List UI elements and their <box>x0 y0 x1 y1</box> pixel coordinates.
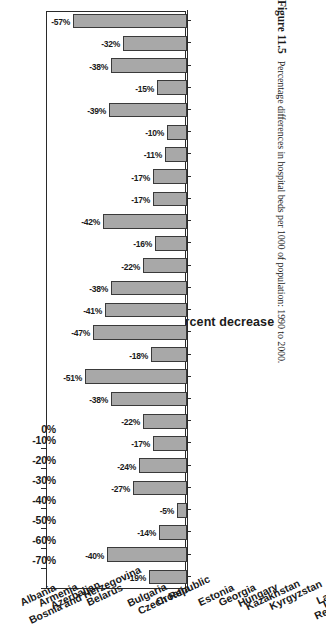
bar-value-label: -22% <box>121 417 140 427</box>
bar <box>133 481 187 496</box>
bar-value-label: -38% <box>89 395 108 405</box>
axis-tick <box>41 448 46 449</box>
bar <box>109 103 187 118</box>
bar <box>103 214 187 229</box>
bar-value-label: -51% <box>63 373 82 383</box>
chart-area: percent decrease -19%-40%-14%-5%-27%-24%… <box>0 0 286 644</box>
bar <box>153 436 187 451</box>
bar <box>143 414 187 429</box>
bar <box>177 503 187 518</box>
bar-value-label: -15% <box>135 84 154 94</box>
axis-tick <box>41 568 46 569</box>
bar <box>167 125 187 140</box>
bar <box>85 369 187 384</box>
bar-value-label: -5% <box>160 506 174 516</box>
bar <box>93 325 187 340</box>
zero-baseline <box>187 10 188 588</box>
bar-value-label: -27% <box>111 484 130 494</box>
axis-tick-label: -40% <box>32 494 56 506</box>
bar <box>139 458 187 473</box>
axis-tick-label: -10% <box>32 434 56 446</box>
bar-value-label: -38% <box>89 62 108 72</box>
axis-tick-label: -30% <box>32 474 56 486</box>
bar <box>111 392 187 407</box>
axis-tick-label: -20% <box>32 454 56 466</box>
bar-value-label: -32% <box>101 39 120 49</box>
bar-value-label: -17% <box>131 195 150 205</box>
bar <box>165 147 187 162</box>
axis-tick <box>41 548 46 549</box>
category-label-holder: Republic of Moldova <box>310 589 326 600</box>
axis-tick-label: -50% <box>32 514 56 526</box>
bar-value-label: -22% <box>121 262 140 272</box>
bar <box>105 303 187 318</box>
bar <box>155 236 187 251</box>
axis-tick-label: -60% <box>32 534 56 546</box>
bar <box>111 58 187 73</box>
category-label: Republic of Moldova <box>313 568 326 621</box>
bar-value-label: -24% <box>117 462 136 472</box>
bar <box>157 80 187 95</box>
bar-value-label: -40% <box>85 551 104 561</box>
bar-value-label: -14% <box>137 528 156 538</box>
axis-tick-label: 0% <box>41 423 56 435</box>
bar <box>107 547 187 562</box>
bar-value-label: -39% <box>87 106 106 116</box>
bar-value-label: -17% <box>131 173 150 183</box>
bar-value-label: -41% <box>83 306 102 316</box>
bar-value-label: -47% <box>71 328 90 338</box>
axis-tick-label: -70% <box>32 554 56 566</box>
category-label-line: Republic of Moldova <box>313 568 326 621</box>
bar-value-label: -57% <box>51 17 70 27</box>
bar-value-label: -16% <box>133 239 152 249</box>
bar-value-label: -10% <box>145 128 164 138</box>
bar <box>149 570 187 585</box>
axis-tick <box>41 488 46 489</box>
bar-value-label: -11% <box>144 151 162 161</box>
axis-tick <box>41 528 46 529</box>
bar <box>159 525 187 540</box>
bar <box>153 169 187 184</box>
bar-value-label: -17% <box>131 440 150 450</box>
bar <box>153 192 187 207</box>
bar <box>111 281 187 296</box>
plot-frame: -19%-40%-14%-5%-27%-24%-17%-22%-38%-51%-… <box>46 11 186 589</box>
axis-tick <box>41 508 46 509</box>
bar-value-label: -38% <box>89 284 108 294</box>
bar-value-label: -42% <box>81 217 100 227</box>
bar <box>123 36 187 51</box>
bar <box>143 258 187 273</box>
bar-value-label: -18% <box>129 351 148 361</box>
axis-tick <box>41 468 46 469</box>
bar <box>151 347 187 362</box>
bar <box>73 14 187 29</box>
